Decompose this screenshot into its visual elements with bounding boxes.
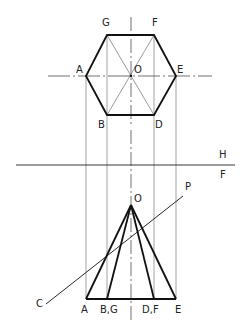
label-base-a: A [81, 305, 88, 315]
label-base-e: E [175, 305, 181, 315]
cutting-plane-line [46, 196, 183, 304]
label-g: G [102, 18, 110, 28]
label-o-front: O [134, 194, 142, 204]
label-c: C [36, 299, 43, 309]
label-e: E [177, 65, 183, 75]
label-p: P [185, 182, 191, 192]
label-h: H [219, 150, 227, 160]
label-a: A [76, 65, 83, 75]
label-f-ref: F [220, 170, 226, 180]
label-base-df: D,F [142, 305, 159, 315]
label-f: F [152, 18, 158, 28]
label-b: B [98, 120, 105, 130]
center-lines [48, 17, 212, 320]
label-base-bg: B,G [100, 305, 118, 315]
label-d: D [155, 120, 163, 130]
label-o-top: O [134, 65, 142, 75]
drawing-canvas [0, 0, 245, 334]
